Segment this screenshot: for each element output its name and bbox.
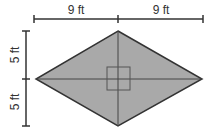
rhombus-diagram: 9 ft 9 ft 5 ft 5 ft [0,0,218,138]
label-top-right: 9 ft [153,3,170,17]
vertical-dimension [22,31,30,126]
horizontal-dimension [34,15,203,23]
label-left-bottom: 5 ft [8,93,22,110]
label-left-top: 5 ft [8,46,22,63]
label-top-left: 9 ft [68,3,85,17]
